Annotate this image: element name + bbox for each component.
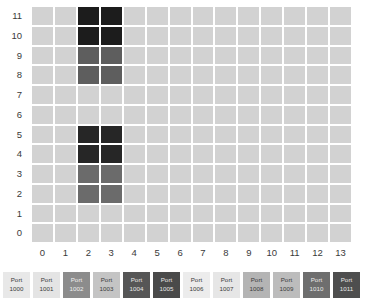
heatmap-cell <box>260 184 283 204</box>
heatmap-cell <box>31 164 54 184</box>
y-axis-tick: 4 <box>0 144 28 164</box>
heatmap-cell <box>237 85 260 105</box>
legend-item-label-top: Port <box>311 276 323 285</box>
heatmap-cell <box>214 164 237 184</box>
heatmap-cell <box>77 144 100 164</box>
heatmap-cell <box>31 6 54 26</box>
heatmap-cell <box>260 65 283 85</box>
heatmap-cell <box>100 46 123 66</box>
heatmap-cell <box>237 65 260 85</box>
heatmap-cell <box>100 204 123 224</box>
heatmap-grid <box>31 6 352 243</box>
legend-item-port-1002[interactable]: Port1002 <box>63 272 90 298</box>
legend-item-label-top: Port <box>251 276 263 285</box>
x-axis-tick: 13 <box>329 245 352 261</box>
heatmap-cell <box>306 144 329 164</box>
heatmap-cell <box>214 223 237 243</box>
y-axis-tick: 11 <box>0 6 28 26</box>
legend-item-port-1003[interactable]: Port1003 <box>93 272 120 298</box>
heatmap-cell <box>123 6 146 26</box>
x-axis-tick: 8 <box>214 245 237 261</box>
y-axis-tick: 7 <box>0 85 28 105</box>
heatmap-cell <box>329 204 352 224</box>
heatmap-cell <box>123 46 146 66</box>
legend-item-label-top: Port <box>221 276 233 285</box>
legend-item-port-1004[interactable]: Port1004 <box>123 272 150 298</box>
legend-item-port-1007[interactable]: Port1007 <box>213 272 240 298</box>
heatmap-cell <box>260 125 283 145</box>
y-axis-tick: 0 <box>0 223 28 243</box>
heatmap-figure: 11109876543210 012345678910111213 Port10… <box>0 0 368 308</box>
legend-item-label-bottom: 1011 <box>340 285 354 294</box>
heatmap-cell <box>260 6 283 26</box>
heatmap-cell <box>169 223 192 243</box>
heatmap-cell <box>146 26 169 46</box>
heatmap-cell <box>329 125 352 145</box>
heatmap-cell <box>54 46 77 66</box>
heatmap-cell <box>214 204 237 224</box>
heatmap-cell <box>77 46 100 66</box>
heatmap-cell <box>146 144 169 164</box>
x-axis-tick: 4 <box>123 245 146 261</box>
heatmap-cell <box>123 204 146 224</box>
heatmap-cell <box>77 26 100 46</box>
heatmap-cell <box>237 223 260 243</box>
legend-item-port-1011[interactable]: Port1011 <box>333 272 360 298</box>
heatmap-cell <box>192 164 215 184</box>
legend-item-label-bottom: 1001 <box>39 285 53 294</box>
legend-item-label-top: Port <box>161 276 173 285</box>
heatmap-cell <box>146 164 169 184</box>
heatmap-cell <box>306 164 329 184</box>
heatmap-cell <box>31 65 54 85</box>
heatmap-cell <box>192 105 215 125</box>
legend-item-port-1000[interactable]: Port1000 <box>3 272 30 298</box>
legend-item-label-top: Port <box>11 276 23 285</box>
heatmap-cell <box>123 85 146 105</box>
heatmap-cell <box>169 204 192 224</box>
legend-item-port-1006[interactable]: Port1006 <box>183 272 210 298</box>
heatmap-cell <box>192 85 215 105</box>
heatmap-cell <box>283 125 306 145</box>
heatmap-cell <box>123 26 146 46</box>
y-axis-tick: 6 <box>0 105 28 125</box>
legend-item-label-bottom: 1002 <box>69 285 83 294</box>
heatmap-cell <box>169 144 192 164</box>
heatmap-cell <box>169 164 192 184</box>
heatmap-cell <box>192 144 215 164</box>
x-axis-tick: 11 <box>283 245 306 261</box>
heatmap-cell <box>31 26 54 46</box>
heatmap-cell <box>214 184 237 204</box>
legend-item-port-1010[interactable]: Port1010 <box>303 272 330 298</box>
heatmap-cell <box>329 65 352 85</box>
x-axis-tick-labels: 012345678910111213 <box>31 245 352 261</box>
legend-item-port-1009[interactable]: Port1009 <box>273 272 300 298</box>
heatmap-cell <box>306 65 329 85</box>
heatmap-cell <box>100 65 123 85</box>
heatmap-cell <box>214 46 237 66</box>
heatmap-cell <box>237 144 260 164</box>
heatmap-cell <box>214 125 237 145</box>
legend-item-label-bottom: 1003 <box>99 285 113 294</box>
heatmap-cell <box>31 184 54 204</box>
heatmap-cell <box>169 26 192 46</box>
legend-item-label-top: Port <box>101 276 113 285</box>
heatmap-cell <box>283 164 306 184</box>
heatmap-cell <box>260 85 283 105</box>
heatmap-cell <box>169 125 192 145</box>
heatmap-cell <box>192 65 215 85</box>
legend-item-label-top: Port <box>41 276 53 285</box>
x-axis-tick: 6 <box>169 245 192 261</box>
legend-item-port-1008[interactable]: Port1008 <box>243 272 270 298</box>
heatmap-cell <box>306 85 329 105</box>
heatmap-cell <box>123 164 146 184</box>
legend-item-label-bottom: 1007 <box>219 285 233 294</box>
legend-item-port-1001[interactable]: Port1001 <box>33 272 60 298</box>
heatmap-cell <box>54 184 77 204</box>
port-legend: Port1000Port1001Port1002Port1003Port1004… <box>3 272 365 298</box>
heatmap-cell <box>169 65 192 85</box>
legend-item-port-1005[interactable]: Port1005 <box>153 272 180 298</box>
heatmap-cell <box>31 223 54 243</box>
heatmap-cell <box>237 105 260 125</box>
heatmap-cell <box>260 105 283 125</box>
heatmap-cell <box>329 26 352 46</box>
